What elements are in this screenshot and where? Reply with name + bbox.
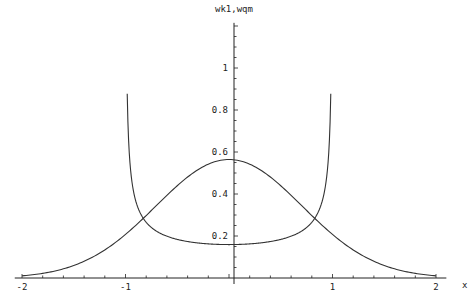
x-axis-label: x xyxy=(462,280,468,290)
ticks xyxy=(22,26,436,278)
y-tick-label: 0.4 xyxy=(212,189,228,199)
y-tick-label: 0.2 xyxy=(212,231,228,241)
x-tick-label: 2 xyxy=(433,282,438,292)
x-tick-label: 1 xyxy=(330,282,335,292)
series-wk1-curve xyxy=(22,160,436,276)
tick-labels: -2-1120.20.40.60.81 xyxy=(17,63,439,292)
y-tick-label: 0.8 xyxy=(212,105,228,115)
y-tick-label: 0.6 xyxy=(212,147,228,157)
y-tick-label: 1 xyxy=(223,63,228,73)
plot-area: -2-1120.20.40.60.81 wk1,wqm x xyxy=(0,0,475,300)
plot-title: wk1,wqm xyxy=(215,4,253,14)
curves xyxy=(22,94,436,276)
x-tick-label: -1 xyxy=(120,282,131,292)
series-wqm-curve xyxy=(127,94,331,245)
x-tick-label: -2 xyxy=(17,282,28,292)
